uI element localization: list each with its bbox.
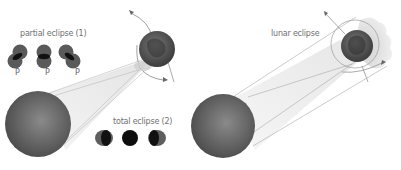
lunar-eclipse-label: lunar eclipse (271, 29, 319, 38)
eclipse-diagram (0, 0, 401, 170)
partial-marker: P (75, 68, 80, 77)
sun-icon (191, 94, 255, 158)
partial-eclipse-group (8, 45, 81, 69)
total-eclipse-label: total eclipse (2) (113, 117, 172, 126)
total-eclipse-group (95, 130, 166, 146)
partial-eclipse-label: partial eclipse (1) (20, 29, 86, 38)
arrow-icon (163, 77, 168, 82)
partial-marker: P (15, 68, 20, 77)
sun-icon (5, 91, 71, 157)
partial-marker: P (45, 68, 50, 77)
